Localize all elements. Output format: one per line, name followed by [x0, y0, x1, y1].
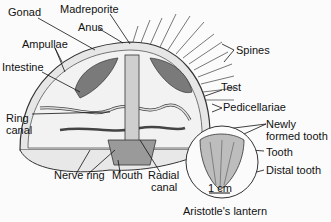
label-pedicellariae: Pedicellariae — [223, 101, 286, 113]
label-ring-canal-line1: Ring — [6, 112, 29, 124]
label-radial-canal-line1: Radial — [148, 169, 179, 181]
label-ampullae: Ampullae — [22, 38, 68, 50]
inset-caption: Aristotle's lantern — [183, 205, 267, 217]
label-spines: Spines — [236, 44, 270, 56]
label-anus: Anus — [78, 21, 103, 33]
label-tooth: Tooth — [266, 146, 293, 158]
label-radial-canal-line2: canal — [151, 181, 177, 193]
label-mouth: Mouth — [112, 169, 143, 181]
label-gonad: Gonad — [8, 6, 41, 18]
label-intestine: Intestine — [2, 61, 44, 73]
label-test: Test — [221, 81, 241, 93]
label-ring-canal-line2: canal — [6, 124, 32, 136]
label-nerve-ring: Nerve ring — [54, 169, 105, 181]
sea-urchin-diagram: Gonad Madreporite Anus Ampullae Intestin… — [0, 0, 331, 222]
label-newly-formed-tooth-line1: Newly — [266, 118, 296, 130]
label-newly-formed-tooth-line2: formed tooth — [266, 130, 328, 142]
label-madreporite: Madreporite — [60, 3, 119, 15]
label-scale-bar: 1 cm — [208, 182, 232, 194]
label-distal-tooth: Distal tooth — [266, 164, 321, 176]
